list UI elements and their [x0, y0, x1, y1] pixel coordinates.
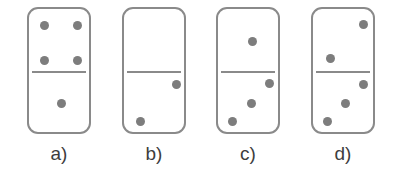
domino-divider-c — [221, 71, 275, 73]
domino-label-b: b) — [122, 142, 186, 166]
domino-pip-d-top-1 — [359, 20, 368, 29]
domino-tile-a[interactable] — [27, 7, 91, 134]
domino-pip-c-bottom-4 — [228, 117, 237, 126]
domino-pip-a-top-2 — [73, 21, 82, 30]
domino-pip-a-top-1 — [40, 21, 49, 30]
domino-figure: a)b)c)d) — [0, 0, 397, 179]
domino-divider-b — [127, 71, 181, 73]
domino-divider-d — [316, 71, 370, 73]
domino-pip-a-bottom-5 — [57, 99, 66, 108]
domino-label-d: d) — [311, 142, 375, 166]
domino-tile-d[interactable] — [311, 7, 375, 134]
domino-pip-c-bottom-3 — [247, 99, 256, 108]
domino-pip-a-top-3 — [40, 56, 49, 65]
domino-pip-b-bottom-2 — [136, 117, 145, 126]
domino-pip-d-bottom-4 — [341, 99, 350, 108]
domino-label-a: a) — [27, 142, 91, 166]
domino-tile-b[interactable] — [122, 7, 186, 134]
domino-tile-c[interactable] — [216, 7, 280, 134]
domino-pip-d-bottom-3 — [359, 80, 368, 89]
domino-pip-c-bottom-2 — [265, 79, 274, 88]
domino-pip-d-bottom-5 — [323, 117, 332, 126]
domino-pip-d-top-2 — [326, 54, 335, 63]
domino-pip-b-bottom-1 — [172, 80, 181, 89]
domino-pip-a-top-4 — [73, 56, 82, 65]
domino-divider-a — [32, 71, 86, 73]
domino-pip-c-top-1 — [248, 37, 257, 46]
domino-label-c: c) — [216, 142, 280, 166]
